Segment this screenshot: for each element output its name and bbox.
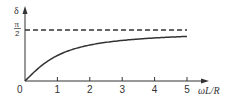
x-tick-label-1: 1	[55, 84, 61, 95]
x-tick-label-5: 5	[184, 84, 190, 95]
x-tick-label-2: 2	[87, 84, 93, 95]
x-axis-label: ωL/R	[198, 85, 220, 96]
x-tick-label-4: 4	[152, 84, 158, 95]
y-tick-two: 2	[15, 29, 20, 38]
y-axis-label: δ	[14, 5, 19, 16]
y-axis-arrow-icon	[23, 6, 28, 14]
x-tick-label-0: 0	[17, 84, 23, 95]
x-ticks	[57, 77, 187, 81]
y-tick-pi: π	[15, 19, 20, 29]
x-axis-arrow-icon	[201, 79, 209, 84]
phase-angle-chart: δ π 2 0 1 2 3 4 5 ωL/R	[0, 0, 234, 99]
arctan-curve	[25, 36, 187, 81]
x-tick-label-3: 3	[119, 84, 125, 95]
